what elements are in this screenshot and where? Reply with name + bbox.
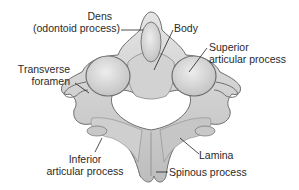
label-inferior-line1: Inferior <box>44 153 126 165</box>
dens-shape <box>141 22 161 62</box>
label-inferior-line2: articular process <box>44 165 126 177</box>
inferior-articular-leader <box>95 138 102 152</box>
label-dens-line2: (odontoid process) <box>30 22 120 34</box>
label-lamina-line1: Lamina <box>199 149 233 161</box>
label-transverse-line1: Transverse <box>10 63 70 75</box>
right-inferior-articular <box>195 126 215 136</box>
left-superior-facet <box>86 56 130 96</box>
label-superior-line1: Superior <box>209 41 286 53</box>
vertebra-diagram: Dens (odontoid process) Body Superior ar… <box>0 0 299 190</box>
label-transverse-line2: foramen <box>10 75 70 87</box>
label-transverse-foramen: Transverse foramen <box>10 63 70 87</box>
label-dens: Dens (odontoid process) <box>30 10 120 34</box>
label-spinous-process: Spinous process <box>169 166 247 178</box>
label-superior-line2: articular process <box>209 53 286 65</box>
lamina-leader <box>180 138 199 154</box>
label-lamina: Lamina <box>199 149 233 161</box>
label-inferior-articular-process: Inferior articular process <box>44 153 126 177</box>
left-inferior-articular <box>87 126 107 136</box>
label-superior-articular-process: Superior articular process <box>209 41 286 65</box>
label-spinous-line1: Spinous process <box>169 166 247 178</box>
label-body: Body <box>174 22 198 34</box>
label-body-line1: Body <box>174 22 198 34</box>
label-dens-line1: Dens <box>30 10 120 22</box>
